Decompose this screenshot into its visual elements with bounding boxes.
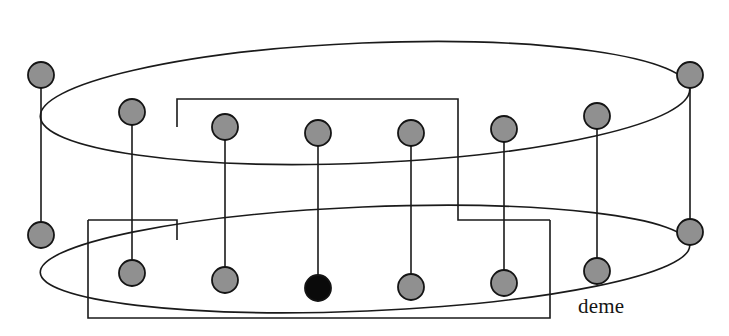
population-structure-diagram <box>0 0 729 336</box>
individual-node-b1 <box>119 260 145 286</box>
individual-node-b0 <box>28 222 54 248</box>
individual-node-t1 <box>119 99 145 125</box>
individual-node-b5 <box>491 270 517 296</box>
individual-node-t5 <box>491 116 517 142</box>
individual-node-b6 <box>584 258 610 284</box>
individual-node-t7 <box>677 62 703 88</box>
individual-node-b3 <box>305 275 331 301</box>
figure-canvas: deme <box>0 0 729 336</box>
individual-node-t2 <box>212 114 238 140</box>
individual-node-t0 <box>28 62 54 88</box>
deme-label: deme <box>578 294 624 319</box>
individual-node-b4 <box>398 274 424 300</box>
individual-node-t4 <box>398 120 424 146</box>
individual-node-b2 <box>212 267 238 293</box>
individual-node-b7 <box>677 219 703 245</box>
individual-node-t3 <box>305 120 331 146</box>
nodes-group <box>28 62 703 301</box>
individual-node-t6 <box>584 103 610 129</box>
